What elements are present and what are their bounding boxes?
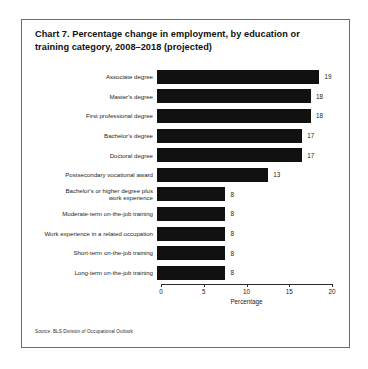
bar-row: Doctoral degree17 [22, 145, 348, 165]
x-axis-tick [204, 284, 205, 287]
bar-row: Long-term on-the-job training8 [22, 263, 348, 283]
bar-value-label: 8 [230, 230, 234, 237]
bar-value-label: 8 [230, 191, 234, 198]
x-axis: 05101520 Percentage [161, 284, 332, 314]
x-axis-tick-label: 15 [286, 288, 293, 295]
category-label: Master's degree [22, 93, 157, 100]
bar-zone: 8 [157, 204, 348, 224]
x-axis-title: Percentage [230, 298, 262, 305]
category-label: Associate degree [22, 73, 157, 80]
plot-area: Associate degree19Master's degree18First… [22, 67, 348, 317]
bar [157, 129, 302, 143]
bar [157, 168, 268, 182]
category-label: First professional degree [22, 112, 157, 119]
bar-row: Short-term on-the-job training8 [22, 243, 348, 263]
category-label: Postsecondary vocational award [22, 171, 157, 178]
bar-row: Work experience in a related occupation8 [22, 224, 348, 244]
bar-row: Associate degree19 [22, 67, 348, 87]
bar-value-label: 8 [230, 210, 234, 217]
chart-figure-frame: Chart 7. Percentage change in employment… [21, 19, 350, 348]
bar-row: First professional degree18 [22, 106, 348, 126]
bar-zone: 8 [157, 243, 348, 263]
bar [157, 187, 225, 201]
bar-value-label: 8 [230, 269, 234, 276]
bar-row: Master's degree18 [22, 87, 348, 107]
bar-value-label: 13 [273, 171, 280, 178]
category-label: Bachelor's or higher degree plus work ex… [22, 187, 157, 202]
x-axis-tick-label: 10 [243, 288, 250, 295]
category-label: Bachelor's degree [22, 132, 157, 139]
bar [157, 227, 225, 241]
chart-title: Chart 7. Percentage change in employment… [35, 28, 335, 54]
bar [157, 246, 225, 260]
x-axis-tick [161, 284, 162, 287]
category-label: Long-term on-the-job training [22, 269, 157, 276]
bar [157, 89, 311, 103]
category-label: Work experience in a related occupation [22, 230, 157, 237]
bar-zone: 17 [157, 145, 348, 165]
x-axis-tick [289, 284, 290, 287]
bar [157, 148, 302, 162]
bar-row: Postsecondary vocational award13 [22, 165, 348, 185]
bar-zone: 8 [157, 224, 348, 244]
bar-row: Bachelor's or higher degree plus work ex… [22, 185, 348, 205]
x-axis-tick [247, 284, 248, 287]
bar-zone: 18 [157, 87, 348, 107]
bar-row: Moderate-term on-the-job training8 [22, 204, 348, 224]
bar-zone: 17 [157, 126, 348, 146]
bar-value-label: 17 [307, 132, 314, 139]
category-label: Doctoral degree [22, 152, 157, 159]
bar-value-label: 17 [307, 152, 314, 159]
bar-zone: 8 [157, 185, 348, 205]
x-axis-tick-label: 0 [159, 288, 163, 295]
category-label: Short-term on-the-job training [22, 249, 157, 256]
bar-zone: 13 [157, 165, 348, 185]
bar-value-label: 19 [324, 73, 331, 80]
bar-rows: Associate degree19Master's degree18First… [22, 67, 348, 283]
bar-zone: 18 [157, 106, 348, 126]
bar [157, 70, 319, 84]
bar-value-label: 18 [316, 112, 323, 119]
category-label: Moderate-term on-the-job training [22, 210, 157, 217]
bar [157, 207, 225, 221]
bar [157, 109, 311, 123]
bar-value-label: 18 [316, 93, 323, 100]
source-note: Source: BLS Division of Occupational Out… [35, 329, 133, 334]
x-axis-tick [332, 284, 333, 287]
x-axis-tick-label: 20 [328, 288, 335, 295]
bar-value-label: 8 [230, 250, 234, 257]
x-axis-tick-label: 5 [202, 288, 206, 295]
bar [157, 266, 225, 280]
bar-row: Bachelor's degree17 [22, 126, 348, 146]
bar-zone: 19 [157, 67, 348, 87]
bar-zone: 8 [157, 263, 348, 283]
